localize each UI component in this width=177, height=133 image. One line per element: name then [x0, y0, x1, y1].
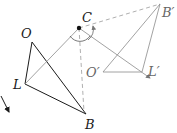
label-L-prime: L′: [147, 64, 160, 79]
point-C: [77, 26, 81, 30]
label-C: C: [82, 10, 92, 25]
label-L: L: [12, 77, 22, 92]
label-B: B: [84, 117, 95, 132]
label-O: O: [21, 26, 32, 41]
triangle-OprimeLprimeBprime: [103, 4, 160, 72]
label-B-prime: B′: [161, 5, 175, 20]
label-O-prime: O′: [86, 65, 100, 80]
direction-arrow-icon: [1, 96, 9, 112]
geometry-diagram: O L B C B′ O′ L′: [0, 0, 177, 133]
segment-LC: [25, 28, 79, 84]
